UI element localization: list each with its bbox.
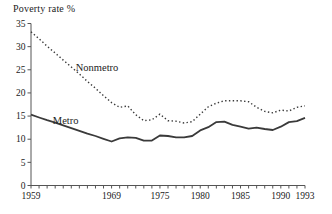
x-tick-label: 1985 [231,191,250,201]
y-tick-label: 10 [16,134,26,144]
y-tick-label: 20 [16,88,26,98]
x-tick-label: 1993 [296,191,315,201]
x-tick-label: 1990 [271,191,290,201]
y-tick-label: 30 [16,42,26,52]
poverty-rate-chart: Poverty rate % 0510152025303519591969197… [0,0,332,214]
y-tick-label: 15 [16,111,26,121]
x-tick-label: 1975 [150,191,169,201]
y-tick-label: 5 [21,158,26,168]
y-tick-label: 0 [21,181,26,191]
x-tick-label: 1959 [22,191,41,201]
chart-plot-area: 0510152025303519591969197519801985199019… [0,0,332,214]
x-tick-label: 1980 [191,191,210,201]
series-line-nonmetro [31,32,305,123]
x-tick-label: 1969 [102,191,121,201]
series-label-metro: Metro [53,115,79,126]
series-label-nonmetro: Nonmetro [76,62,119,73]
y-tick-label: 25 [16,65,26,75]
y-tick-label: 35 [16,19,26,29]
